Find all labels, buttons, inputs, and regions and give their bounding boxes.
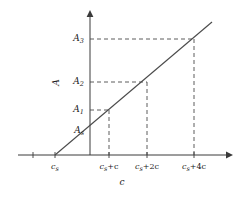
x-tick-label-cs-plus-4c-op: +4c — [190, 162, 206, 171]
y-tick-label-a1-sub: 1 — [80, 108, 84, 116]
x-tick-label-cs-plus-2c-op: +2c — [143, 162, 159, 171]
y-axis-title: A — [52, 73, 61, 93]
y-tick-label-a2: A2 — [60, 77, 84, 86]
y-tick-label-a2-sub: 2 — [80, 80, 84, 88]
y-tick-label-as-base: A — [74, 125, 81, 135]
x-tick-label-cs-plus-2c-sub: s — [139, 165, 142, 173]
x-tick-label-cs-plus-2c: cs+2c — [127, 163, 167, 171]
x-tick-label-cs-plus-c-op: +c — [107, 162, 118, 171]
y-tick-label-a1-base: A — [73, 104, 80, 114]
y-tick-label-a3: A3 — [60, 34, 84, 43]
x-tick-label-cs-plus-c: cs+c — [90, 163, 128, 171]
x-axis-arrow — [226, 152, 233, 159]
y-tick-label-a2-base: A — [73, 76, 80, 86]
chart-figure: A3 A2 A1 As cs cs+c cs+2c cs+4c A c — [0, 0, 244, 199]
x-tick-label-cs-plus-4c-sub: s — [186, 165, 189, 173]
x-tick-label-cs: cs — [40, 163, 70, 171]
x-tick-label-cs-base: c — [51, 162, 55, 171]
x-tick-label-cs-sub: s — [56, 165, 59, 173]
x-tick-label-cs-plus-4c: cs+4c — [174, 163, 214, 171]
y-axis-arrow — [87, 10, 94, 17]
y-tick-label-as-sub: s — [81, 129, 84, 137]
y-tick-label-a3-sub: 3 — [80, 37, 84, 45]
y-tick-label-as: As — [60, 126, 84, 135]
y-tick-label-a1: A1 — [60, 105, 84, 114]
x-tick-label-cs-plus-c-sub: s — [104, 165, 107, 173]
x-axis-title: c — [114, 178, 130, 187]
y-tick-label-a3-base: A — [73, 33, 80, 43]
